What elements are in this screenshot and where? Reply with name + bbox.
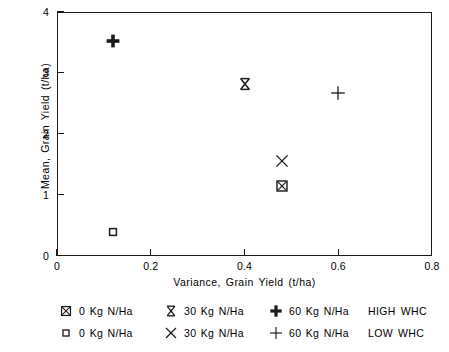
- legend-entry[interactable]: 30 Kg N/Ha: [163, 324, 244, 342]
- x-tick-mark: [244, 249, 245, 256]
- legend-entry[interactable]: 60 Kg N/Ha: [268, 302, 349, 320]
- y-axis-title: Mean, Grain Yield (t/ha): [39, 1, 51, 251]
- x-tick-label: 0.2: [127, 261, 175, 272]
- x-tick-mark: [150, 249, 151, 256]
- y-tick-mark: [57, 133, 64, 134]
- x-tick-label: 0: [33, 261, 81, 272]
- x-tick-label: 0.4: [221, 261, 269, 272]
- y-tick-mark: [57, 11, 64, 12]
- data-point-x[interactable]: [273, 152, 291, 170]
- chart-legend: 0 Kg N/Ha30 Kg N/Ha60 Kg N/HaHIGH WHC0 K…: [0, 300, 449, 350]
- x-axis-title: Variance, Grain Yield (t/ha): [57, 276, 432, 288]
- x-tick-mark: [56, 249, 57, 256]
- x-tick-mark: [338, 249, 339, 256]
- legend-open-square-icon: [58, 325, 74, 341]
- legend-label: 30 Kg N/Ha: [184, 305, 244, 317]
- legend-group-label: HIGH WHC: [368, 302, 427, 320]
- y-tick-mark: [57, 194, 64, 195]
- y-tick-mark: [57, 255, 64, 256]
- legend-bowtie-x-icon: [163, 303, 179, 319]
- legend-boxed-x-icon: [58, 303, 74, 319]
- legend-entry[interactable]: 0 Kg N/Ha: [58, 302, 133, 320]
- y-tick-mark: [57, 72, 64, 73]
- x-tick-label: 0.6: [314, 261, 362, 272]
- legend-entry[interactable]: 30 Kg N/Ha: [163, 302, 244, 320]
- y-tick-label: 0: [8, 251, 49, 261]
- legend-group-label: LOW WHC: [368, 324, 424, 342]
- data-point-bowtie-x[interactable]: [236, 75, 254, 93]
- legend-entry[interactable]: 60 Kg N/Ha: [268, 324, 349, 342]
- legend-entry[interactable]: 0 Kg N/Ha: [58, 324, 133, 342]
- x-tick-label: 0.8: [408, 261, 449, 272]
- scatter-chart-figure: 01234 00.20.40.60.8 Variance, Grain Yiel…: [0, 0, 449, 352]
- legend-bold-plus-icon: [268, 303, 284, 319]
- data-point-boxed-x[interactable]: [273, 177, 291, 195]
- legend-thin-plus-icon: [268, 325, 284, 341]
- data-point-bold-plus[interactable]: [104, 32, 122, 50]
- legend-label: 60 Kg N/Ha: [289, 327, 349, 339]
- legend-row: 0 Kg N/Ha30 Kg N/Ha60 Kg N/HaLOW WHC: [0, 324, 449, 346]
- legend-label: 0 Kg N/Ha: [79, 305, 133, 317]
- x-tick-mark: [431, 249, 432, 256]
- legend-label: 30 Kg N/Ha: [184, 327, 244, 339]
- data-point-open-square[interactable]: [104, 223, 122, 241]
- legend-label: 60 Kg N/Ha: [289, 305, 349, 317]
- data-point-thin-plus[interactable]: [329, 84, 347, 102]
- legend-label: 0 Kg N/Ha: [79, 327, 133, 339]
- legend-row: 0 Kg N/Ha30 Kg N/Ha60 Kg N/HaHIGH WHC: [0, 302, 449, 324]
- legend-x-icon: [163, 325, 179, 341]
